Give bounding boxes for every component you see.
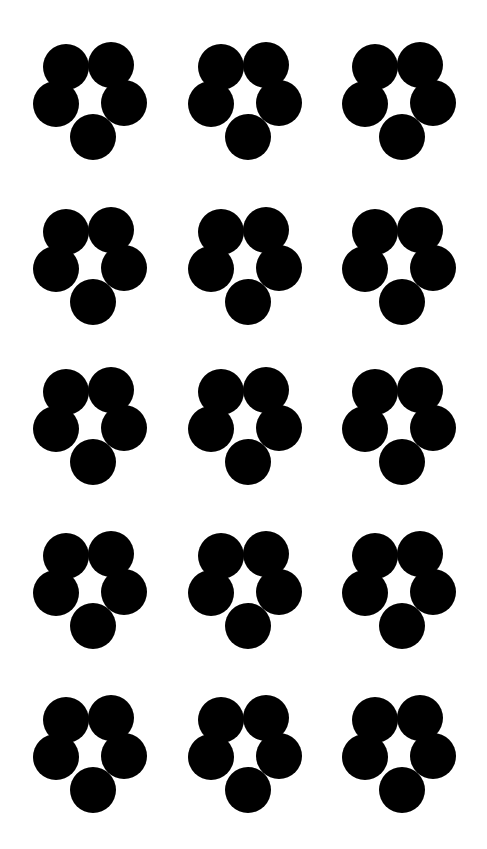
circle-right [101,245,147,291]
circle-bottom [379,439,425,485]
circle-left [342,734,388,780]
flower-shape-r5-c3 [342,695,462,817]
circle-bottom [379,279,425,325]
circle-right [410,405,456,451]
circle-left [33,81,79,127]
circle-left [342,406,388,452]
circle-right [256,569,302,615]
circle-right [101,405,147,451]
circle-right [256,733,302,779]
circle-left [188,734,234,780]
circle-right [101,80,147,126]
circle-right [101,569,147,615]
circle-left [342,246,388,292]
circle-bottom [225,114,271,160]
circle-bottom [225,603,271,649]
flower-shape-r4-c2 [188,531,308,653]
circle-bottom [70,603,116,649]
circle-right [410,80,456,126]
circle-right [410,569,456,615]
circle-left [33,246,79,292]
flower-shape-r1-c2 [188,42,308,164]
flower-shape-r2-c3 [342,207,462,329]
flower-shape-r2-c1 [33,207,153,329]
circle-bottom [379,767,425,813]
circle-left [33,570,79,616]
circle-left [33,734,79,780]
circle-left [188,570,234,616]
circle-bottom [70,439,116,485]
circle-bottom [379,114,425,160]
circle-left [342,570,388,616]
circle-right [256,245,302,291]
flower-shape-r2-c2 [188,207,308,329]
circle-left [188,81,234,127]
flower-shape-r5-c1 [33,695,153,817]
circle-bottom [225,439,271,485]
circle-bottom [70,114,116,160]
circle-bottom [225,767,271,813]
circle-right [256,405,302,451]
circle-bottom [225,279,271,325]
flower-shape-r4-c1 [33,531,153,653]
flower-shape-r5-c2 [188,695,308,817]
circle-left [188,406,234,452]
circle-right [410,245,456,291]
flower-shape-r4-c3 [342,531,462,653]
flower-shape-r3-c2 [188,367,308,489]
circle-bottom [379,603,425,649]
flower-shape-r3-c1 [33,367,153,489]
circle-left [33,406,79,452]
circle-right [410,733,456,779]
flower-grid-canvas [0,0,487,849]
circle-left [188,246,234,292]
circle-right [256,80,302,126]
flower-shape-r3-c3 [342,367,462,489]
flower-shape-r1-c3 [342,42,462,164]
circle-right [101,733,147,779]
circle-bottom [70,279,116,325]
flower-shape-r1-c1 [33,42,153,164]
circle-left [342,81,388,127]
circle-bottom [70,767,116,813]
